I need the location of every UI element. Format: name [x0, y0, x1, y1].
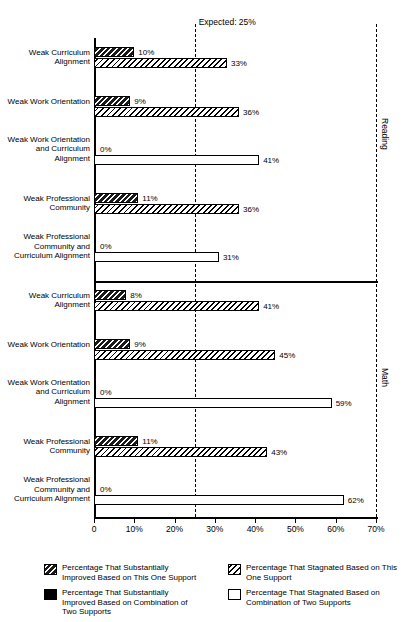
chart-canvas: Expected: 25%ReadingMathWeak Curriculum …: [0, 0, 405, 622]
x-axis-tick-label: 70%: [360, 524, 392, 534]
bar-stagnated: [94, 301, 259, 311]
x-axis-tick: [94, 519, 95, 523]
category-label: Weak Curriculum Alignment: [2, 48, 90, 67]
bar-stagnated: [94, 495, 344, 505]
expected-line-label: Expected: 25%: [199, 17, 256, 27]
bar-stagnated-value: 41%: [263, 302, 279, 311]
bar-stagnated-value: 31%: [223, 253, 239, 262]
panel-label-math: Math: [380, 368, 390, 387]
bar-stagnated: [94, 58, 227, 68]
legend-label: Percentage That Stagnated Based on This …: [246, 563, 405, 582]
x-axis-tick-label: 60%: [320, 524, 352, 534]
expected-dashed-line: [195, 24, 196, 517]
category-label: Weak Work Orientation: [2, 340, 90, 349]
x-axis-tick: [134, 519, 135, 523]
bar-improved-value: 11%: [142, 437, 157, 446]
bar-improved: [94, 144, 96, 154]
legend-label: Percentage That Substantially Improved B…: [62, 588, 202, 617]
x-axis-tick: [336, 519, 337, 523]
bar-stagnated-value: 62%: [348, 496, 364, 505]
legend-swatch-open: [228, 589, 241, 600]
x-axis-tick: [255, 519, 256, 523]
bar-stagnated-value: 36%: [243, 108, 259, 117]
bar-improved: [94, 47, 134, 57]
x-axis-tick-label: 20%: [159, 524, 191, 534]
bar-improved: [94, 484, 96, 494]
category-label: Weak Professional Community: [2, 437, 90, 456]
bar-improved: [94, 436, 138, 446]
bar-improved-value: 9%: [134, 340, 146, 349]
bar-stagnated: [94, 350, 275, 360]
category-label: Weak Work Orientation: [2, 97, 90, 106]
bar-improved: [94, 290, 126, 300]
legend-label: Percentage That Substantially Improved B…: [62, 563, 202, 582]
category-label: Weak Work Orientation and Curriculum Ali…: [2, 378, 90, 406]
bar-stagnated: [94, 252, 219, 262]
bar-stagnated: [94, 204, 239, 214]
bar-improved-value: 0%: [100, 145, 112, 154]
bar-improved-value: 11%: [142, 194, 157, 203]
x-axis-tick-label: 40%: [239, 524, 271, 534]
x-axis-tick-label: 0: [78, 524, 110, 534]
bar-improved: [94, 193, 138, 203]
x-axis-tick-label: 10%: [118, 524, 150, 534]
category-label: Weak Curriculum Alignment: [2, 291, 90, 310]
x-axis-tick: [376, 519, 377, 523]
bar-improved: [94, 96, 130, 106]
bar-improved-value: 0%: [100, 242, 112, 251]
bar-stagnated-value: 59%: [336, 399, 352, 408]
x-axis-tick: [295, 519, 296, 523]
axis-max-dashed-line: [376, 24, 377, 517]
chart-legend: Percentage That Substantially Improved B…: [0, 555, 405, 615]
bar-stagnated-value: 41%: [263, 156, 279, 165]
legend-swatch-hatch-light: [228, 564, 241, 575]
bar-improved: [94, 387, 96, 397]
x-axis-tick-label: 30%: [199, 524, 231, 534]
category-label: Weak Professional Community: [2, 194, 90, 213]
bar-stagnated: [94, 155, 259, 165]
bar-improved-value: 0%: [100, 388, 112, 397]
panel-separator-line: [94, 281, 378, 283]
bar-stagnated: [94, 447, 267, 457]
bar-stagnated: [94, 398, 332, 408]
category-label: Weak Professional Community and Curricul…: [2, 232, 90, 260]
panel-label-reading: Reading: [380, 118, 390, 150]
x-axis-tick: [215, 519, 216, 523]
legend-swatch-solid: [44, 589, 57, 600]
bar-stagnated-value: 36%: [243, 205, 259, 214]
x-axis-tick-label: 50%: [279, 524, 311, 534]
bar-improved-value: 9%: [134, 97, 146, 106]
bar-improved-value: 0%: [100, 485, 112, 494]
bar-stagnated-value: 45%: [279, 351, 295, 360]
bar-stagnated-value: 33%: [231, 59, 247, 68]
category-label: Weak Work Orientation and Curriculum Ali…: [2, 135, 90, 163]
bar-improved-value: 8%: [130, 291, 142, 300]
bar-stagnated: [94, 107, 239, 117]
bar-improved-value: 10%: [138, 48, 154, 57]
category-label: Weak Professional Community and Curricul…: [2, 475, 90, 503]
bar-improved: [94, 339, 130, 349]
legend-swatch-hatch-dark: [44, 564, 57, 575]
x-axis-tick: [175, 519, 176, 523]
bar-stagnated-value: 43%: [271, 448, 287, 457]
bar-improved: [94, 241, 96, 251]
legend-label: Percentage That Stagnated Based on Combi…: [246, 588, 405, 607]
